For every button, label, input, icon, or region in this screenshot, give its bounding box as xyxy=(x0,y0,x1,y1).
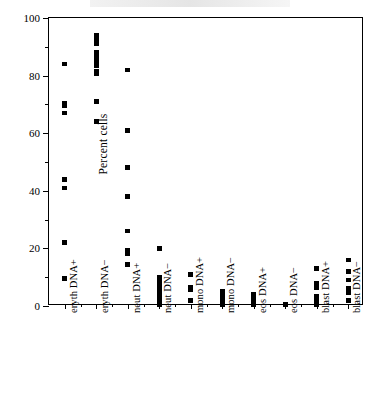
x-tick-minor xyxy=(144,304,145,307)
data-point xyxy=(62,240,67,245)
data-point xyxy=(188,288,193,293)
x-tick-minor xyxy=(112,304,113,307)
y-tick-major: 80 xyxy=(43,76,49,77)
y-tick-label: 80 xyxy=(12,70,40,82)
data-point xyxy=(125,128,130,133)
data-point xyxy=(62,186,67,191)
x-category-label-8: blast DNA+ xyxy=(320,261,331,313)
x-tick-minor xyxy=(238,304,239,307)
y-tick-label: 40 xyxy=(12,185,40,197)
data-point xyxy=(314,266,319,271)
data-point xyxy=(283,302,288,307)
data-point xyxy=(125,165,130,170)
x-tick-minor xyxy=(207,304,208,307)
y-tick-label: 60 xyxy=(12,127,40,139)
data-point xyxy=(62,104,67,109)
data-point xyxy=(157,246,162,251)
data-point xyxy=(125,229,130,234)
data-point xyxy=(346,298,351,303)
y-tick-minor xyxy=(45,104,49,105)
y-tick-label: 0 xyxy=(12,300,40,312)
data-point xyxy=(220,302,225,307)
x-category-label-0: eryth DNA+ xyxy=(68,259,79,313)
data-point xyxy=(62,62,67,67)
data-point xyxy=(125,68,130,73)
data-point xyxy=(251,302,256,307)
x-tick-minor xyxy=(301,304,302,307)
x-tick-major xyxy=(348,304,349,309)
data-point xyxy=(346,269,351,274)
figure-canvas: Percent cells 020406080100 eryth DNA+ery… xyxy=(0,0,383,394)
data-point xyxy=(188,272,193,277)
data-point xyxy=(346,278,351,283)
y-tick-minor xyxy=(45,162,49,163)
data-point xyxy=(157,302,162,307)
y-tick-label: 20 xyxy=(12,242,40,254)
data-point xyxy=(125,252,130,257)
x-tick-minor xyxy=(270,304,271,307)
y-tick-major: 60 xyxy=(43,133,49,134)
y-axis-label: Percent cells xyxy=(97,84,109,204)
x-tick-minor xyxy=(175,304,176,307)
x-tick-major xyxy=(96,304,97,309)
x-category-label-1: eryth DNA− xyxy=(99,259,110,313)
x-tick-minor xyxy=(81,304,82,307)
data-point xyxy=(94,99,99,104)
data-point xyxy=(94,72,99,77)
data-point xyxy=(94,42,99,47)
y-tick-minor xyxy=(45,277,49,278)
x-tick-major xyxy=(191,304,192,309)
plot-area: Percent cells 020406080100 xyxy=(48,17,363,305)
x-category-label-4: mono DNA+ xyxy=(194,257,205,313)
y-tick-major: 20 xyxy=(43,248,49,249)
data-point xyxy=(94,63,99,68)
data-point xyxy=(346,291,351,296)
data-point xyxy=(314,302,319,307)
x-tick-minor xyxy=(333,304,334,307)
data-point xyxy=(125,194,130,199)
y-tick-major: 0 xyxy=(43,306,49,307)
data-point xyxy=(125,262,130,267)
data-point xyxy=(346,258,351,263)
data-point xyxy=(188,298,193,303)
y-tick-label: 100 xyxy=(12,12,40,24)
x-category-label-9: blast DNA− xyxy=(351,261,362,313)
x-category-label-7: eos DNA− xyxy=(288,267,299,313)
y-tick-major: 100 xyxy=(43,18,49,19)
data-point xyxy=(314,285,319,290)
x-tick-major xyxy=(65,304,66,309)
scan-artifact xyxy=(90,0,290,7)
data-point xyxy=(62,177,67,182)
y-tick-major: 40 xyxy=(43,191,49,192)
data-point xyxy=(62,276,67,281)
x-category-label-6: eos DNA+ xyxy=(257,267,268,313)
x-category-label-2: neut DNA+ xyxy=(131,263,142,313)
y-tick-minor xyxy=(45,220,49,221)
y-tick-minor xyxy=(45,47,49,48)
x-category-label-5: mono DNA− xyxy=(225,257,236,313)
data-point xyxy=(62,111,67,116)
x-tick-major xyxy=(128,304,129,309)
data-point xyxy=(94,119,99,124)
x-category-label-3: neut DNA− xyxy=(162,263,173,313)
